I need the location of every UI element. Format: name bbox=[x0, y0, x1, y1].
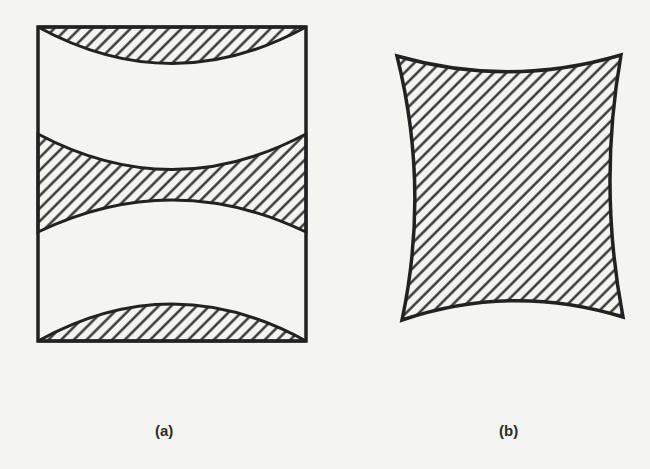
top-hatched-region bbox=[38, 27, 306, 64]
panel-a-label: (a) bbox=[155, 422, 173, 439]
diagram-figure bbox=[0, 0, 650, 469]
bottom-hatched-region bbox=[38, 304, 306, 341]
figure-canvas: (a) (b) bbox=[0, 0, 650, 469]
panel-b-label: (b) bbox=[499, 422, 518, 439]
panel-b bbox=[397, 55, 623, 320]
pincushion-shape bbox=[397, 55, 623, 320]
panel-a bbox=[38, 27, 306, 341]
middle-hatched-band bbox=[38, 134, 306, 232]
